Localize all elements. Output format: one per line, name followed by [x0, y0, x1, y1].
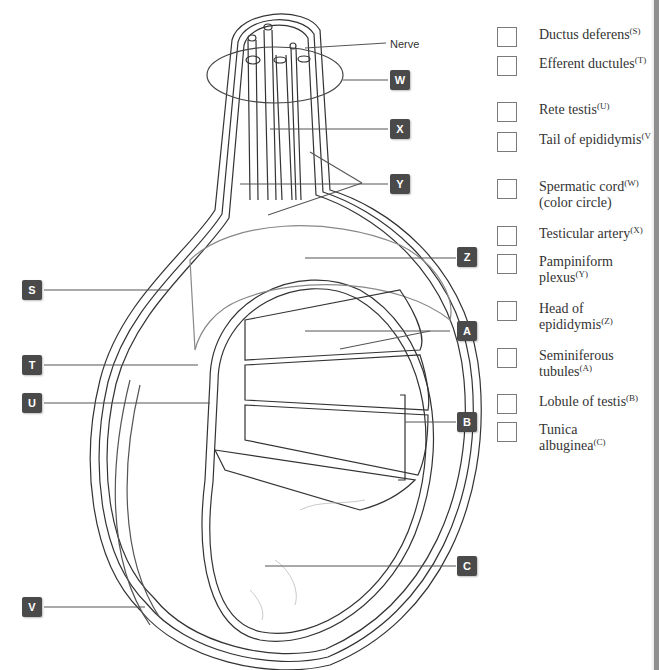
checkbox[interactable]	[497, 56, 517, 76]
legend-text: Ductus deferens(S)	[539, 27, 659, 43]
page-edge	[654, 0, 659, 670]
legend-item: Tail of epididymis(V)	[497, 132, 659, 152]
legend-item: Ductus deferens(S)	[497, 27, 659, 47]
legend-item: Spermatic cord(W)(color circle)	[497, 179, 659, 211]
legend-text: Efferent ductules(T)	[539, 56, 659, 72]
legend-text: Rete testis(U)	[539, 102, 659, 118]
legend-item: Pampiniform plexus(Y)	[497, 254, 639, 286]
leader-a2	[340, 331, 430, 349]
label-x: X	[390, 119, 410, 139]
leader-y1	[310, 152, 362, 183]
label-y: Y	[390, 174, 410, 194]
outer-wall-inner-1	[99, 20, 473, 662]
lobule-bracket	[398, 395, 405, 480]
legend-text: Lobule of testis(B)	[539, 394, 659, 410]
outer-wall-inner-2	[107, 25, 465, 654]
label-c: C	[457, 556, 477, 576]
cord-tube	[264, 30, 276, 200]
lobule	[215, 450, 415, 510]
testis-diagram	[0, 0, 659, 670]
legend-item: Lobule of testis(B)	[497, 394, 659, 414]
legend-text: Tail of epididymis(V)	[539, 132, 659, 148]
vessel-top	[298, 56, 310, 62]
legend-item: Testicular artery(X)	[497, 226, 659, 246]
legend-text: Testicular artery(X)	[539, 226, 659, 242]
outer-wall	[90, 14, 481, 670]
cord-tube	[276, 55, 292, 200]
label-a: A	[457, 321, 477, 341]
vessel-top	[248, 35, 256, 41]
cord-tube	[291, 48, 301, 200]
lobule	[245, 355, 429, 410]
label-u: U	[22, 393, 42, 413]
legend-text: Tunica albuginea(C)	[539, 422, 609, 454]
checkbox[interactable]	[497, 27, 517, 47]
lobule	[245, 405, 428, 475]
legend-item: Head of epididymis(Z)	[497, 301, 619, 333]
tunica-albuginea-inner	[210, 289, 426, 634]
legend-text: Head of epididymis(Z)	[539, 301, 619, 333]
checkbox[interactable]	[497, 226, 517, 246]
leader-nerve	[305, 43, 386, 48]
checkbox[interactable]	[497, 301, 517, 321]
label-b: B	[457, 412, 477, 432]
legend-text: Spermatic cord(W)(color circle)	[539, 179, 659, 211]
label-w: W	[390, 70, 410, 90]
checkbox[interactable]	[497, 179, 517, 199]
checkbox[interactable]	[497, 132, 517, 152]
label-s: S	[22, 280, 42, 300]
tunica-albuginea	[202, 280, 433, 641]
legend-item: Seminiferous tubules(A)	[497, 348, 629, 380]
label-t: T	[22, 355, 42, 375]
legend-item: Tunica albuginea(C)	[497, 422, 609, 454]
legend-text: Seminiferous tubules(A)	[539, 348, 629, 380]
nerve-label: Nerve	[390, 38, 419, 50]
checkbox[interactable]	[497, 254, 517, 274]
lobule	[245, 290, 422, 360]
label-v: V	[22, 597, 42, 617]
label-z: Z	[457, 247, 477, 267]
legend-item: Efferent ductules(T)	[497, 56, 659, 76]
checkbox[interactable]	[497, 102, 517, 122]
checkbox[interactable]	[497, 394, 517, 414]
checkbox[interactable]	[497, 422, 517, 442]
checkbox[interactable]	[497, 348, 517, 368]
legend-text: Pampiniform plexus(Y)	[539, 254, 639, 286]
legend-item: Rete testis(U)	[497, 102, 659, 122]
